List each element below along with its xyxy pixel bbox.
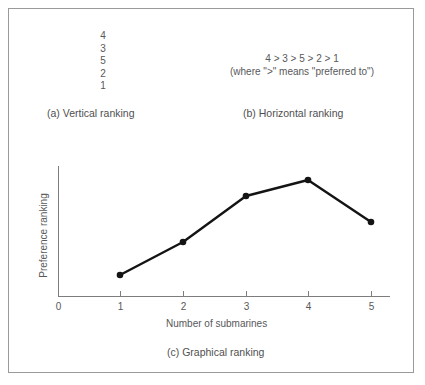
x-tick-label-2: 2 bbox=[177, 301, 191, 312]
x-tick-label-1: 1 bbox=[114, 301, 128, 312]
x-tick-label-4: 4 bbox=[302, 301, 316, 312]
data-point-markers bbox=[117, 177, 375, 279]
panel-c-caption: (c) Graphical ranking bbox=[167, 346, 264, 358]
data-point-4 bbox=[305, 177, 312, 184]
x-tick-label-3: 3 bbox=[240, 301, 254, 312]
data-point-3 bbox=[243, 193, 250, 200]
x-tick-label-5: 5 bbox=[365, 301, 379, 312]
x-axis-title: Number of submarines bbox=[166, 318, 267, 330]
x-tick-label-0: 0 bbox=[52, 301, 66, 312]
data-point-1 bbox=[117, 272, 124, 279]
y-axis-title: Preference ranking bbox=[38, 181, 49, 291]
data-point-5 bbox=[368, 219, 375, 226]
figure-container: 4 3 5 2 1 (a) Vertical ranking 4 > 3 > 5… bbox=[0, 0, 425, 385]
data-point-2 bbox=[180, 239, 187, 246]
